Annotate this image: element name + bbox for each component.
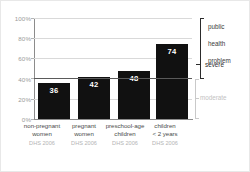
category-line-2: women [74,130,94,137]
y-tick-label-40: 40% [3,76,31,83]
bar-value-label: 36 [38,86,70,95]
gridline-100 [34,18,192,19]
bar-value-label: 74 [156,47,188,56]
category-line-2: women [32,130,52,137]
x-axis-line [34,119,193,120]
y-tick-label-80: 80% [3,35,31,42]
y-tick-label-20: 20% [3,96,31,103]
annotation-line-1: public [208,23,224,30]
annotation-line-2: health [208,40,225,47]
bracket-cap-bottom [200,78,204,79]
bracket-stub-moderate [195,98,199,99]
category-label-children-under-2-years: children < 2 years DHS 2006 [140,122,190,148]
category-line-1: pregnant [72,122,96,129]
category-source: DHS 2006 [140,139,190,147]
bracket-severe [200,18,205,79]
bar-pregnant-women: 42 [78,77,110,119]
bar-non-pregnant-women: 36 [38,83,70,119]
category-line-2: < 2 years [152,130,177,137]
threshold-line-40 [34,78,192,79]
bracket-spine [195,79,196,119]
bracket-cap-top [200,18,204,19]
annotation-moderate: moderate [200,94,227,102]
chart-figure: 100% 80% 60% 40% 20% 0% 36 42 48 74 [0,0,250,172]
category-line-1: non-pregnant [24,122,60,129]
category-line-1: preschool-age [106,122,145,129]
y-tick-label-100: 100% [3,15,31,22]
gridline-80 [34,38,192,39]
bar-value-label: 42 [78,80,110,89]
bracket-cap-top [195,79,199,80]
category-line-2: children [114,130,135,137]
annotation-public-health-problem: public health problem [208,15,231,65]
category-line-1: children [154,122,175,129]
bar-children-under-2-years: 74 [156,44,188,119]
bracket-cap-bottom [195,118,199,119]
bracket-spine [200,18,201,79]
plot-area: 36 42 48 74 [34,18,192,119]
bracket-stub-severe [196,64,200,65]
annotation-severe: severe [205,61,224,69]
y-tick-label-60: 60% [3,55,31,62]
